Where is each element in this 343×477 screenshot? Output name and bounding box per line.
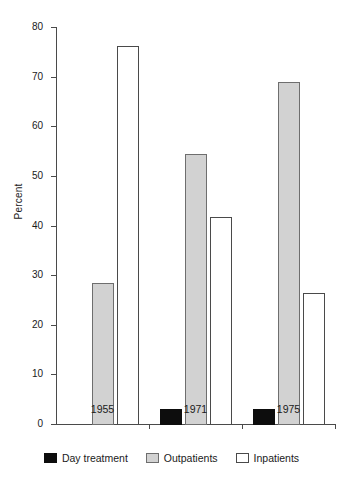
y-axis-tick-label: 70	[32, 71, 43, 82]
y-axis-tick-label: 10	[32, 368, 43, 379]
y-axis-tick: 80	[51, 27, 57, 28]
y-axis-tick: 30	[51, 275, 57, 276]
plot-area: 01020304050607080	[56, 28, 335, 425]
bar-1975-outpatients	[278, 82, 300, 425]
x-axis-category-label-1955: 1955	[56, 403, 149, 415]
chart-legend: Day treatmentOutpatientsInpatients	[0, 452, 343, 464]
y-axis-tick: 20	[51, 325, 57, 326]
y-axis-tick: 70	[51, 77, 57, 78]
legend-entry-inpatients: Inpatients	[236, 452, 300, 464]
white-swatch-icon	[236, 453, 249, 463]
legend-label: Day treatment	[62, 452, 128, 464]
x-axis-tick	[242, 424, 243, 429]
y-axis-tick: 10	[51, 374, 57, 375]
y-axis-tick: 60	[51, 126, 57, 127]
black-swatch-icon	[44, 453, 57, 463]
bar-1971-outpatients	[185, 154, 207, 425]
legend-entry-day-treatment: Day treatment	[44, 452, 128, 464]
y-axis-tick-label: 80	[32, 21, 43, 32]
bar-chart: Percent 01020304050607080 195519711975 D…	[0, 0, 343, 477]
x-axis-tick	[149, 424, 150, 429]
gray-swatch-icon	[146, 453, 159, 463]
y-axis-tick-label: 40	[32, 220, 43, 231]
x-axis-tick	[335, 424, 336, 429]
y-axis-tick-label: 60	[32, 120, 43, 131]
y-axis-tick: 40	[51, 226, 57, 227]
y-axis-tick-label: 0	[37, 418, 43, 429]
bar-1971-inpatients	[210, 217, 232, 425]
y-axis-tick: 50	[51, 176, 57, 177]
legend-label: Outpatients	[164, 452, 218, 464]
legend-entry-outpatients: Outpatients	[146, 452, 218, 464]
y-axis-tick-label: 20	[32, 319, 43, 330]
legend-label: Inpatients	[254, 452, 300, 464]
x-axis-category-label-1975: 1975	[242, 403, 335, 415]
x-axis-category-label-1971: 1971	[149, 403, 242, 415]
y-axis-line	[56, 28, 57, 425]
y-axis-tick: 0	[51, 424, 57, 425]
y-axis-label: Percent	[13, 162, 24, 242]
bar-1955-inpatients	[117, 46, 139, 425]
y-axis-tick-label: 50	[32, 170, 43, 181]
y-axis-tick-label: 30	[32, 269, 43, 280]
